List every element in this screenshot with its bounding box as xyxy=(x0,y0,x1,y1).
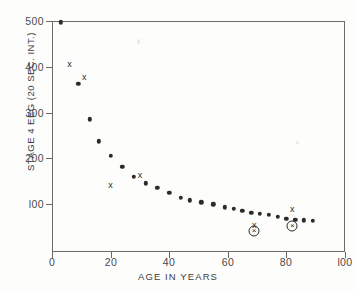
data-point-x: x xyxy=(290,205,295,214)
x-axis-tick-label: 40 xyxy=(163,256,175,268)
data-point-x: x xyxy=(67,60,72,69)
y-axis-tick-label: 300 xyxy=(25,107,44,119)
paper-speck xyxy=(137,39,140,44)
data-point-x: x xyxy=(138,170,143,179)
y-axis-tick-label: 200 xyxy=(25,152,44,164)
y-axis-tick-label: l00 xyxy=(29,198,44,210)
data-point-x: x xyxy=(108,181,113,190)
y-axis-title: STAGE 4 EEG (20 SEC. INT.) xyxy=(25,2,36,202)
y-axis-tick xyxy=(46,21,53,22)
figure-scatter-stage4-eeg-vs-age: STAGE 4 EEG (20 SEC. INT.) AGE IN YEARS … xyxy=(0,0,356,290)
x-axis-title: AGE IN YEARS xyxy=(0,271,356,282)
data-point-circled-x: × xyxy=(249,225,260,236)
x-axis-tick-label: 20 xyxy=(105,256,117,268)
data-point-x: x xyxy=(82,72,87,81)
plot-area-frame xyxy=(52,21,345,252)
y-axis-tick xyxy=(46,113,53,114)
x-axis-tick-label: 60 xyxy=(222,256,234,268)
x-axis-tick-label: l00 xyxy=(337,256,352,268)
y-axis-tick xyxy=(46,204,53,205)
paper-speck xyxy=(296,141,299,144)
x-axis-tick-label: 80 xyxy=(280,256,292,268)
y-axis-tick xyxy=(46,158,53,159)
y-axis-tick xyxy=(46,67,53,68)
x-axis-tick-label: 0 xyxy=(49,256,55,268)
y-axis-tick-label: 400 xyxy=(25,61,44,73)
y-axis-tick-label: 500 xyxy=(25,15,44,27)
data-point-circled-x: × xyxy=(287,220,298,231)
